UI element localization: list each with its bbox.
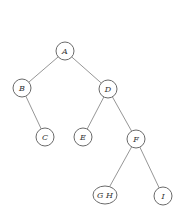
- tree-node-d: D: [99, 80, 117, 98]
- tree-node-a: A: [56, 42, 74, 60]
- node-label: G H: [97, 191, 114, 200]
- tree-node-f: F: [127, 130, 145, 148]
- tree-node-b: B: [13, 79, 31, 97]
- binary-tree-diagram: ABDCEFG HI: [0, 0, 185, 217]
- node-label: D: [104, 85, 112, 94]
- tree-nodes: ABDCEFG HI: [13, 42, 172, 205]
- tree-node-i: I: [154, 187, 172, 205]
- tree-node-c: C: [36, 128, 54, 146]
- node-label: C: [42, 133, 48, 142]
- tree-node-e: E: [74, 128, 92, 146]
- tree-node-gh: G H: [93, 186, 117, 204]
- node-label: E: [79, 133, 86, 142]
- node-label: A: [61, 47, 68, 56]
- node-label: B: [18, 84, 25, 93]
- tree-edges: [22, 51, 163, 196]
- node-label: F: [132, 135, 139, 144]
